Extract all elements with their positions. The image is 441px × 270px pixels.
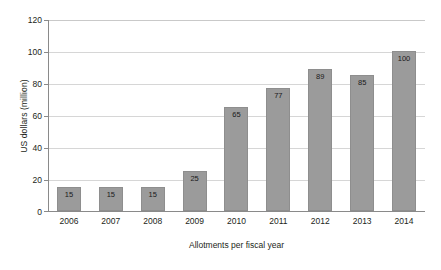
y-tick-label-100: 100 xyxy=(16,48,42,57)
y-axis-tick-labels: 0 20 40 60 80 100 120 xyxy=(14,20,42,212)
x-tick-label-2007: 2007 xyxy=(90,216,132,226)
bar-value-label-2011: 77 xyxy=(267,92,289,100)
bar-slot: 100 xyxy=(383,19,425,211)
bar-slot: 15 xyxy=(48,19,90,211)
bar-slot: 25 xyxy=(174,19,216,211)
bar-slot: 15 xyxy=(90,19,132,211)
bar-slot: 65 xyxy=(216,19,258,211)
y-tick-label-120: 120 xyxy=(16,16,42,25)
bar-value-label-2012: 89 xyxy=(309,73,331,81)
bar-slot: 85 xyxy=(341,19,383,211)
x-tick-label-2010: 2010 xyxy=(216,216,258,226)
bar-2012[interactable]: 89 xyxy=(308,69,332,211)
plot-area: 1515152565778985100 xyxy=(48,20,425,212)
y-tick-label-60: 60 xyxy=(16,112,42,121)
y-tick-label-0: 0 xyxy=(16,208,42,217)
bar-series: 1515152565778985100 xyxy=(48,20,425,212)
x-tick-label-2012: 2012 xyxy=(299,216,341,226)
bar-slot: 15 xyxy=(132,19,174,211)
bar-2014[interactable]: 100 xyxy=(392,51,416,211)
x-tick-label-2011: 2011 xyxy=(257,216,299,226)
bar-2006[interactable]: 15 xyxy=(57,187,81,211)
bar-value-label-2009: 25 xyxy=(184,175,206,183)
cropped-page-artifact xyxy=(24,0,144,6)
bar-value-label-2014: 100 xyxy=(393,55,415,63)
x-tick-label-2008: 2008 xyxy=(132,216,174,226)
bar-chart: US dollars (million) 0 20 40 60 80 100 1… xyxy=(0,0,441,270)
bar-value-label-2008: 15 xyxy=(142,191,164,199)
y-tick-label-20: 20 xyxy=(16,176,42,185)
bar-2013[interactable]: 85 xyxy=(350,75,374,211)
y-tick-label-40: 40 xyxy=(16,144,42,153)
bar-2011[interactable]: 77 xyxy=(266,88,290,211)
bar-value-label-2007: 15 xyxy=(100,191,122,199)
bar-slot: 89 xyxy=(299,19,341,211)
x-tick-label-2014: 2014 xyxy=(383,216,425,226)
x-axis-title: Allotments per fiscal year xyxy=(48,240,425,250)
bar-value-label-2010: 65 xyxy=(225,111,247,119)
bar-2008[interactable]: 15 xyxy=(141,187,165,211)
y-tick-label-80: 80 xyxy=(16,80,42,89)
bar-2009[interactable]: 25 xyxy=(183,171,207,211)
x-tick-label-2009: 2009 xyxy=(174,216,216,226)
bar-slot: 77 xyxy=(257,19,299,211)
bar-2007[interactable]: 15 xyxy=(99,187,123,211)
x-tick-label-2013: 2013 xyxy=(341,216,383,226)
x-axis-tick-labels: 200620072008200920102011201220132014 xyxy=(48,216,425,230)
bar-value-label-2013: 85 xyxy=(351,79,373,87)
x-tick-label-2006: 2006 xyxy=(48,216,90,226)
bar-value-label-2006: 15 xyxy=(58,191,80,199)
bar-2010[interactable]: 65 xyxy=(224,107,248,211)
